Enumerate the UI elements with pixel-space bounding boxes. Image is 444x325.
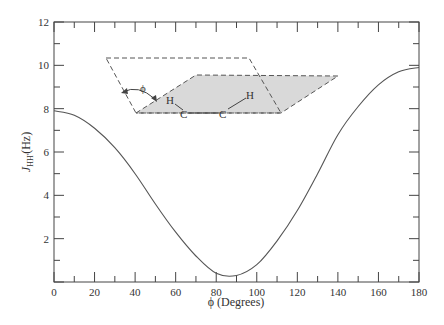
y-axis-title-sub: HH' bbox=[26, 153, 35, 167]
x-tick-label: 180 bbox=[411, 286, 428, 298]
y-axis-title: JHH'(Hz) bbox=[19, 132, 35, 172]
x-tick-label: 0 bbox=[51, 286, 57, 298]
x-tick-label: 60 bbox=[170, 286, 182, 298]
x-tick-label: 160 bbox=[370, 286, 387, 298]
atom-h-left: H bbox=[166, 94, 174, 106]
y-axis-title-unit: (Hz) bbox=[19, 132, 33, 154]
dihedral-diagram: H C C H ϕ bbox=[106, 58, 338, 120]
axis-ticks: 02040608010012014016018024681012 bbox=[38, 16, 428, 298]
x-tick-label: 120 bbox=[289, 286, 306, 298]
plot-frame bbox=[54, 22, 419, 282]
y-tick-label: 4 bbox=[44, 189, 50, 201]
x-axis-title: ϕ (Degrees) bbox=[208, 295, 265, 309]
y-tick-label: 10 bbox=[38, 59, 50, 71]
atom-c-right: C bbox=[219, 108, 226, 120]
arrow-left-icon bbox=[121, 88, 128, 94]
x-tick-label: 40 bbox=[130, 286, 142, 298]
x-tick-label: 20 bbox=[89, 286, 101, 298]
y-tick-label: 8 bbox=[44, 103, 50, 115]
angle-phi-label: ϕ bbox=[140, 82, 146, 94]
karplus-chart: 02040608010012014016018024681012 H C C H… bbox=[0, 0, 444, 325]
x-tick-label: 140 bbox=[330, 286, 347, 298]
y-tick-label: 2 bbox=[44, 233, 50, 245]
y-tick-label: 12 bbox=[38, 16, 49, 28]
y-tick-label: 6 bbox=[44, 146, 50, 158]
atom-c-left: C bbox=[180, 108, 187, 120]
atom-h-right: H bbox=[246, 89, 254, 101]
